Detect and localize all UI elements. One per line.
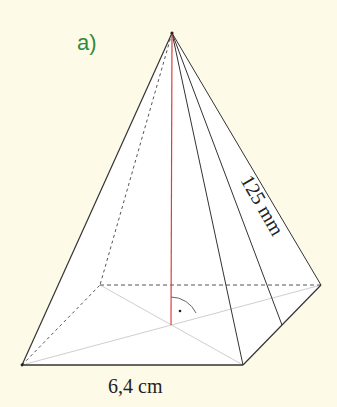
apex-point: [170, 31, 173, 34]
pyramid-diagram: 6,4 cm 125 mm: [0, 0, 337, 407]
corner-point: [21, 364, 24, 367]
base-edge-label: 6,4 cm: [108, 375, 163, 397]
right-angle-dot: [179, 310, 182, 313]
